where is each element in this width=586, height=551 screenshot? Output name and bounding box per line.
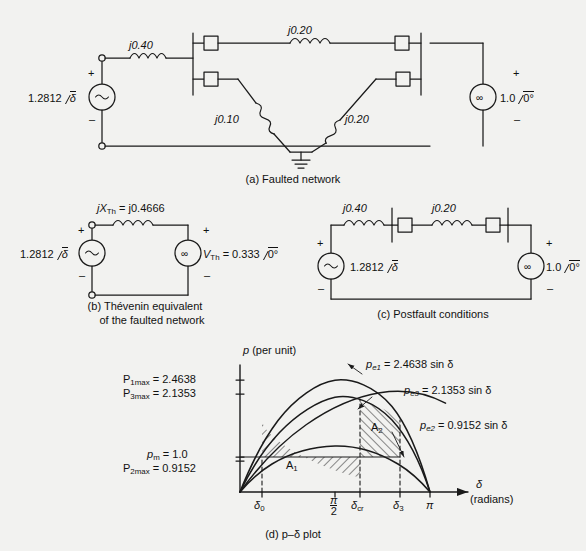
caption-panel-a: (a) Faulted network	[0, 173, 586, 187]
polarity-minus-b-left: –	[79, 270, 85, 281]
x-tick-delta3: δ3	[393, 500, 404, 513]
caption-panel-d: (d) p–δ plot	[0, 528, 586, 542]
x-tick-delta-cr: δcr	[351, 500, 364, 513]
infinite-bus-symbol-b: ∞	[181, 249, 188, 259]
polarity-plus-c-left: +	[317, 238, 323, 249]
polarity-minus-a-left: –	[89, 114, 95, 125]
source-left-label-c: 1.2812 δ	[350, 260, 398, 273]
reactance-branch-right-a: j0.20	[345, 114, 369, 125]
polarity-minus-a-right: –	[514, 114, 520, 125]
polarity-plus-c-right: +	[546, 238, 552, 249]
y-marker-pm: pm = 1.0	[147, 449, 188, 462]
y-marker-p1max: P1max = 2.4638	[123, 374, 196, 387]
y-marker-p2max: P2max = 0.9152	[123, 463, 196, 476]
x-tick-pi: π	[426, 500, 433, 511]
reactance-branch-left-a: j0.10	[215, 114, 239, 125]
reactance-label-b: jXTh = j0.4666	[97, 203, 165, 216]
x-axis-title-symbol: δ	[476, 479, 482, 490]
curve-label-pe1: pe1 = 2.4638 sin δ	[366, 359, 453, 372]
source-right-label-c: 1.0 0°	[546, 260, 580, 273]
polarity-minus-b-right: –	[204, 270, 210, 281]
x-tick-pi-over-2: π2	[330, 495, 337, 518]
x-axis-title-units: (radians)	[470, 494, 513, 505]
y-marker-p3max: P3max = 2.1353	[123, 388, 196, 401]
reactance-series-left-a: j0.40	[129, 40, 153, 51]
curve-label-pe2: pe2 = 0.9152 sin δ	[420, 420, 507, 433]
y-axis-title: p (per unit)	[243, 345, 296, 356]
polarity-plus-a-left: +	[88, 68, 94, 79]
panel-c-circuit	[318, 208, 544, 299]
figure-page: 1.2812 δ + – ∞ 1.0 0° + – j0.40 j0.20 j0…	[0, 0, 586, 551]
panel-a-circuit	[89, 33, 496, 168]
x-tick-delta0: δ0	[254, 500, 265, 513]
curve-pe3-real	[240, 397, 430, 492]
polarity-plus-b-left: +	[78, 225, 84, 236]
reactance-right-c: j0.20	[432, 203, 456, 214]
panel-b-circuit	[79, 221, 201, 299]
caption-panel-c: (c) Postfault conditions	[330, 308, 536, 322]
polarity-minus-c-right: –	[547, 283, 553, 294]
infinite-bus-symbol-c: ∞	[524, 262, 531, 272]
curve-label-pe3: pe3 = 2.1353 sin δ	[404, 385, 491, 398]
polarity-plus-b-right: +	[203, 225, 209, 236]
vth-label-b: VTh = 0.333 0°	[203, 247, 278, 262]
polarity-minus-c-left: –	[318, 283, 324, 294]
source-right-label-a: 1.0 0°	[500, 91, 534, 104]
polarity-plus-a-right: +	[513, 68, 519, 79]
area-label-a2: A2	[371, 422, 383, 435]
area-label-a1: A1	[286, 460, 298, 473]
reactance-left-c: j0.40	[343, 203, 367, 214]
reactance-tie-a: j0.20	[288, 25, 312, 36]
source-left-label-b: 1.2812 δ	[20, 247, 68, 260]
source-left-label-a: 1.2812 δ	[28, 91, 76, 104]
infinite-bus-symbol-a: ∞	[476, 93, 483, 103]
caption-panel-b: (b) Thévenin equivalentof the faulted ne…	[40, 300, 250, 328]
